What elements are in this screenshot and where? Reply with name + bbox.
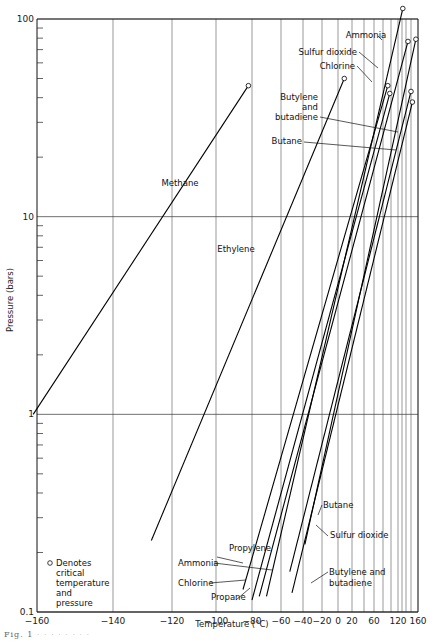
y-tick-label: 10 <box>23 212 35 222</box>
x-tick-label: −40 <box>294 616 313 626</box>
series-line-propane <box>252 93 390 600</box>
x-tick-label: −140 <box>101 616 126 626</box>
x-tick-label: 160 <box>409 616 426 626</box>
label-propylene-bottom: Propylene <box>229 543 271 553</box>
label-butylene-bottom-2: butadiene <box>329 578 372 588</box>
critical-point-marker <box>246 83 251 88</box>
annotation-leader-line <box>304 142 396 150</box>
label-butane-top: Butane <box>272 136 302 146</box>
annotation-leader-line <box>217 557 243 563</box>
legend-text-4: and <box>56 588 72 598</box>
label-sulfur-dioxide-bottom: Sulfur dioxide <box>330 530 388 540</box>
annotation-leader-line <box>357 66 372 82</box>
series-line-chlorine <box>259 41 408 596</box>
series-lines <box>33 6 418 600</box>
legend-text-1: Denotes <box>56 558 92 568</box>
x-tick-label: −160 <box>25 616 50 626</box>
y-tick-label: 1 <box>28 409 34 419</box>
annotation-leader-line <box>214 563 272 570</box>
label-sulfur-dioxide-top: Sulfur dioxide <box>299 47 357 57</box>
label-butylene-bottom-1: Butylene and <box>329 567 385 577</box>
series-line-propylene <box>243 86 388 590</box>
critical-point-marker <box>388 91 393 96</box>
annotation-leader-line <box>318 505 322 515</box>
critical-point-marker <box>409 89 414 94</box>
annotation-leader-line <box>210 580 246 583</box>
label-propane-bottom: Propane <box>211 592 246 602</box>
critical-point-marker <box>414 37 419 42</box>
critical-point-marker <box>401 6 406 11</box>
x-tick-label: 60 <box>368 616 380 626</box>
legend-text-5: pressure <box>56 598 93 608</box>
label-methane: Methane <box>161 178 198 188</box>
y-axis: 0.1110100 <box>17 14 43 617</box>
critical-point-marker <box>386 83 391 88</box>
legend-text-2: critical <box>56 568 84 578</box>
caption-illegible: · · · · · · · · <box>37 630 90 639</box>
caption-text: Fig. 1 <box>4 630 33 639</box>
x-tick-label: −120 <box>160 616 185 626</box>
annotation-leader-line <box>359 52 378 68</box>
critical-point-marker <box>406 39 411 44</box>
figure-caption: Fig. 1 · · · · · · · · <box>4 630 90 639</box>
y-axis-title: Pressure (bars) <box>5 268 15 332</box>
label-ammonia-top: Ammonia <box>346 30 387 40</box>
label-chlorine-bottom: Chlorine <box>178 578 213 588</box>
label-butylene-top-1: Butylene <box>280 92 318 102</box>
grid <box>37 19 418 612</box>
label-butane-bottom: Butane <box>323 500 353 510</box>
vapor-pressure-chart: 0.1110100 −160−140−120−100−80−60−40−2002… <box>0 0 436 644</box>
x-tick-label: 20 <box>346 616 358 626</box>
annotation-leader-line <box>311 572 328 583</box>
label-butylene-top-2: and <box>302 102 318 112</box>
x-tick-label: 0 <box>335 616 341 626</box>
critical-point-marker <box>342 76 347 81</box>
x-tick-label: 120 <box>389 616 406 626</box>
x-axis-title: Temperature (°C) <box>194 619 268 629</box>
label-butylene-top-3: butadiene <box>275 112 318 122</box>
legend-text-3: temperature <box>56 578 109 588</box>
x-tick-label: −20 <box>313 616 332 626</box>
label-ethylene: Ethylene <box>217 244 254 254</box>
y-tick-label: 100 <box>17 14 34 24</box>
legend: Denotes critical temperature and pressur… <box>48 558 110 608</box>
label-ammonia-bottom: Ammonia <box>178 558 219 568</box>
legend-critical-point-symbol <box>48 561 53 566</box>
x-tick-label: −60 <box>272 616 291 626</box>
label-chlorine-top: Chlorine <box>320 61 355 71</box>
critical-point-marker <box>410 100 415 105</box>
